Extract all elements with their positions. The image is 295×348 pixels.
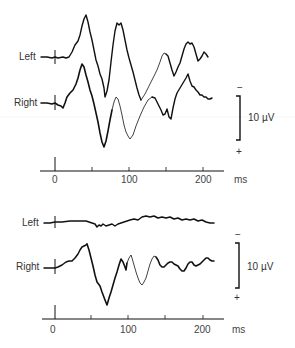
upper-tick-label-100: 100 (121, 174, 138, 185)
lower-right-trace-trough (87, 244, 127, 305)
upper-tick-label-200: 200 (195, 174, 212, 185)
lower-panel: Left Right − 10 µV + 0 100 200 ms (16, 216, 274, 335)
lower-minus-sign: − (235, 229, 241, 240)
lower-tick-label-0: 0 (50, 324, 56, 335)
upper-unit-label: ms (234, 174, 247, 185)
lower-tick-label-200: 200 (194, 324, 211, 335)
lower-tick-label-100: 100 (120, 324, 137, 335)
evoked-potential-figure: Left Right − 10 µV + 0 100 200 ms Left R… (0, 0, 295, 348)
upper-plus-sign: + (236, 146, 242, 157)
lower-right-trace-thin (127, 255, 156, 285)
upper-scale-bar (236, 96, 240, 140)
upper-left-trace-late (166, 42, 208, 76)
lower-left-trace (44, 216, 214, 227)
lower-unit-label: ms (232, 324, 245, 335)
lower-scale-bar (235, 243, 239, 288)
lower-plus-sign: + (234, 292, 240, 303)
upper-tick-label-0: 0 (52, 174, 58, 185)
upper-panel: Left Right − 10 µV + 0 100 200 ms (14, 15, 275, 185)
upper-right-trace-late (152, 74, 212, 119)
upper-minus-sign: − (237, 82, 243, 93)
upper-left-trace-thin (141, 53, 166, 100)
lower-right-trace-late (156, 257, 214, 271)
lower-scale-label: 10 µV (247, 261, 274, 272)
lower-right-trace (44, 244, 87, 268)
lower-right-label: Right (16, 261, 40, 272)
upper-left-label: Left (19, 51, 36, 62)
upper-left-trace (41, 15, 141, 100)
upper-scale-label: 10 µV (248, 112, 275, 123)
upper-right-label: Right (14, 97, 38, 108)
upper-right-trace-thin (112, 97, 152, 139)
lower-left-label: Left (22, 217, 39, 228)
